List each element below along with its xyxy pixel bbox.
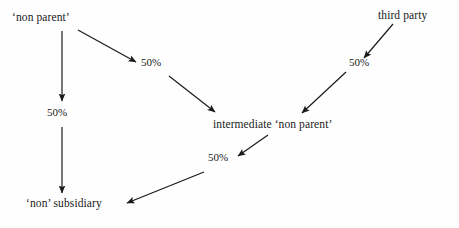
diagram-edges: [0, 0, 459, 228]
edge-intermediate-to-non-subsidiary-leg1: [238, 135, 268, 156]
edge-non-parent-to-intermediate-leg1: [78, 30, 136, 62]
edge-non-parent-to-intermediate-leg2: [169, 76, 215, 112]
edge-third-party-to-intermediate-leg1: [364, 24, 393, 58]
edge-third-party-to-intermediate-leg2: [302, 72, 346, 113]
node-label-third-party: third party: [378, 10, 427, 22]
ownership-diagram: ‘non parent’ third party intermediate ‘n…: [0, 0, 459, 228]
node-label-intermediate-non-parent: intermediate ‘non parent’: [213, 119, 332, 131]
edge-intermediate-to-non-subsidiary-leg2: [127, 172, 204, 203]
edge-label-third-party-to-intermediate: 50%: [349, 57, 369, 68]
edge-label-non-parent-to-non-subsidiary: 50%: [47, 107, 67, 118]
node-label-non-parent: ‘non parent’: [12, 12, 70, 24]
edge-label-intermediate-to-non-subsidiary: 50%: [208, 152, 228, 163]
node-label-non-subsidiary: ‘non’ subsidiary: [26, 198, 102, 210]
edge-label-non-parent-to-intermediate: 50%: [141, 57, 161, 68]
